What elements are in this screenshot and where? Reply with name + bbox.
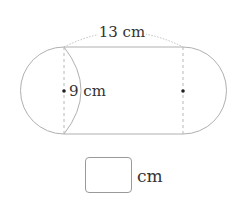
left-center-dot — [62, 89, 66, 93]
answer-unit-label: cm — [137, 166, 163, 186]
diameter-label: 9 cm — [69, 82, 106, 100]
right-center-dot — [181, 89, 185, 93]
left-semicircle — [21, 47, 65, 134]
answer-input-box[interactable] — [85, 157, 132, 193]
right-semicircle — [183, 47, 226, 134]
length-label: 13 cm — [99, 23, 145, 41]
